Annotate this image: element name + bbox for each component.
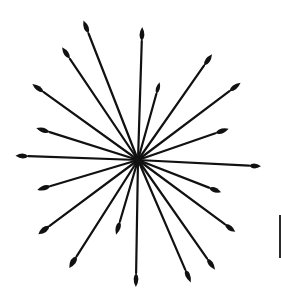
leaf-tip-icon xyxy=(183,269,193,284)
spoke-line xyxy=(28,156,138,160)
leaf-tip-icon xyxy=(133,273,138,287)
stray-edge-mark xyxy=(279,215,281,258)
spoke xyxy=(114,160,138,235)
spoke-line xyxy=(138,133,215,160)
spoke-line xyxy=(136,160,138,273)
spoke-line xyxy=(50,132,138,160)
leaf-tip-icon xyxy=(249,163,261,168)
spoke xyxy=(37,160,138,192)
spoke-line xyxy=(120,160,138,221)
leaf-tip-icon xyxy=(37,184,52,193)
spoke-line xyxy=(138,160,207,258)
spoke xyxy=(138,82,162,160)
spoke-line xyxy=(138,160,249,166)
leaf-tip-icon xyxy=(154,82,161,95)
spoke xyxy=(138,53,214,160)
spoke xyxy=(37,160,138,236)
spoke xyxy=(138,160,217,271)
spoke xyxy=(36,126,138,160)
spoke-line xyxy=(138,66,204,160)
spoke-line xyxy=(138,91,229,160)
leaf-tip-icon xyxy=(36,126,51,135)
spoke-line xyxy=(138,41,142,160)
spoke xyxy=(138,81,242,160)
starburst-figure xyxy=(0,0,281,294)
leaf-tip-icon xyxy=(15,153,28,158)
leaf-tip-icon xyxy=(114,221,123,236)
leaf-tip-icon xyxy=(81,20,91,35)
spoke-line xyxy=(50,160,138,226)
spoke xyxy=(138,126,229,160)
spoke xyxy=(67,160,138,269)
leaf-tip-icon xyxy=(208,185,222,194)
center-hub xyxy=(135,157,141,163)
leaf-tip-icon xyxy=(139,27,144,41)
spoke xyxy=(133,160,138,287)
leaf-tip-icon xyxy=(215,126,230,135)
